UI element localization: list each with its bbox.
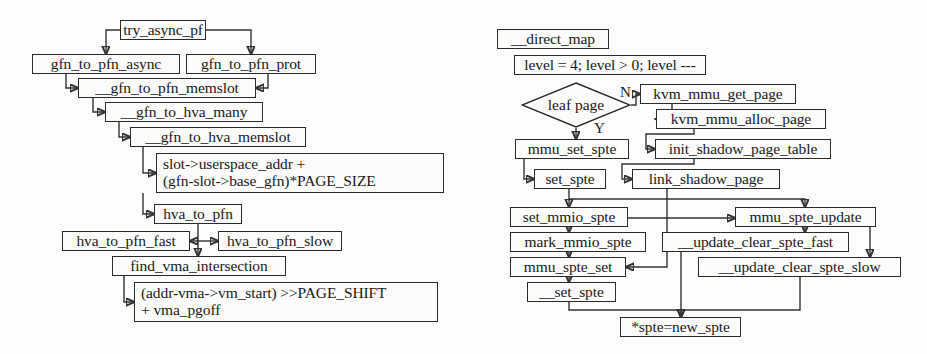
node-hva-to-pfn-slow[interactable]: hva_to_pfn_slow [218, 231, 342, 251]
leaf-page-label: leaf page [521, 96, 631, 114]
node-gfn-to-hva-many[interactable]: __gfn_to_hva_many [105, 102, 263, 122]
node-gfn-to-pfn-memslot[interactable]: __gfn_to_pfn_memslot [78, 78, 256, 98]
node-gfn-to-pfn-prot[interactable]: gfn_to_pfn_prot [186, 54, 316, 74]
edge-label-branch-no: N [620, 84, 631, 101]
node-mmu-spte-update[interactable]: mmu_spte_update [735, 207, 876, 227]
node-link-shadow-page[interactable]: link_shadow_page [632, 169, 780, 189]
node-mark-mmio-spte[interactable]: mark_mmio_spte [510, 232, 646, 252]
node-slot-userspace-addr-expr[interactable]: slot->userspace_addr + (gfn-slot->base_g… [156, 153, 444, 193]
node-direct-map[interactable]: __direct_map [497, 29, 609, 49]
node-kvm-mmu-alloc-page[interactable]: kvm_mmu_alloc_page [656, 109, 826, 129]
node-set-spte-underscore[interactable]: __set_spte [527, 282, 616, 302]
node-mmu-set-spte[interactable]: mmu_set_spte [515, 139, 629, 159]
node-gfn-to-pfn-async[interactable]: gfn_to_pfn_async [32, 54, 180, 74]
node-addr-vma-expr[interactable]: (addr-vma->vm_start) >>PAGE_SHIFT + vma_… [134, 282, 438, 322]
node-mmu-spte-set[interactable]: mmu_spte_set [510, 257, 626, 277]
node-hva-to-pfn-fast[interactable]: hva_to_pfn_fast [62, 231, 190, 251]
node-try-async-pf[interactable]: try_async_pf [120, 20, 206, 40]
node-update-clear-spte-fast[interactable]: __update_clear_spte_fast [662, 232, 849, 252]
node-update-clear-spte-slow[interactable]: __update_clear_spte_slow [698, 257, 901, 277]
node-spte-assign[interactable]: *spte=new_spte [620, 317, 741, 337]
node-hva-to-pfn[interactable]: hva_to_pfn [154, 204, 242, 224]
node-leaf-page-decision[interactable]: leaf page [521, 82, 631, 128]
node-level-loop[interactable]: level = 4; level > 0; level --- [514, 55, 706, 75]
diagram-canvas: try_async_pf gfn_to_pfn_async gfn_to_pfn… [0, 0, 927, 354]
node-set-mmio-spte[interactable]: set_mmio_spte [510, 207, 628, 227]
node-init-shadow-page-table[interactable]: init_shadow_page_table [655, 139, 831, 159]
node-set-spte[interactable]: set_spte [534, 169, 606, 189]
node-gfn-to-hva-memslot[interactable]: __gfn_to_hva_memslot [130, 127, 306, 147]
node-find-vma-intersection[interactable]: find_vma_intersection [112, 256, 286, 276]
edge-label-branch-yes: Y [594, 120, 605, 137]
node-kvm-mmu-get-page[interactable]: kvm_mmu_get_page [640, 84, 796, 104]
